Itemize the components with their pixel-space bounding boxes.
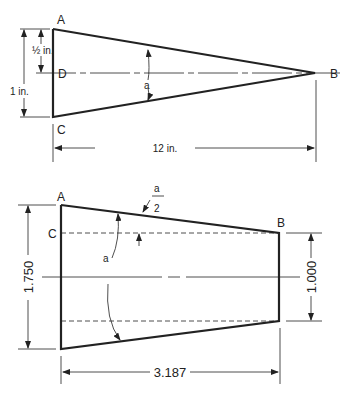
dim-1750: 1.750 <box>21 261 36 294</box>
dim-half-inch: ½ in. <box>32 45 54 56</box>
angle-a-bottom: a <box>103 253 109 264</box>
point-a-top: A <box>57 13 65 27</box>
top-triangle <box>20 29 340 162</box>
taper-diagram: A D C B ½ in. 1 in. 12 in. a <box>0 0 351 395</box>
dim-3187: 3.187 <box>154 365 187 380</box>
dim-one-inch: 1 in. <box>10 86 29 97</box>
point-b-bottom: B <box>277 216 285 230</box>
point-c-bottom: C <box>48 227 57 241</box>
half-angle-denominator: 2 <box>154 203 160 214</box>
half-angle-numerator: a <box>154 183 160 194</box>
dim-1000: 1.000 <box>304 261 319 294</box>
point-d-top: D <box>58 67 67 81</box>
point-a-bottom: A <box>57 190 65 204</box>
point-b-top: B <box>330 67 338 81</box>
angle-a-top: a <box>144 80 150 91</box>
dim-twelve-inch: 12 in. <box>153 143 177 154</box>
point-c-top: C <box>57 123 66 137</box>
